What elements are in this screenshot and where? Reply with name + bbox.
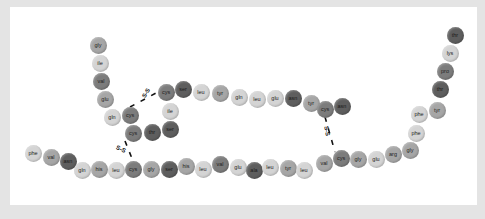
amino-acid-label: thr xyxy=(437,86,443,92)
amino-acid-val: val xyxy=(43,149,60,166)
amino-acid-thr: thr xyxy=(144,124,161,141)
amino-acid-label: asn xyxy=(289,95,298,101)
amino-acid-label: ser xyxy=(165,166,173,172)
amino-acid-label: thr xyxy=(452,32,458,38)
amino-acid-label: cys xyxy=(321,106,329,112)
amino-acid-cys: cys xyxy=(333,150,350,167)
insulin-structure-diagram: glyilevalgluglncyscysthrserilecysserleut… xyxy=(0,0,485,219)
amino-acid-gln: gln xyxy=(104,109,121,126)
amino-acid-ser: ser xyxy=(162,121,179,138)
amino-acid-val: val xyxy=(93,73,110,90)
amino-acid-ser: ser xyxy=(161,161,178,178)
amino-acid-label: gly xyxy=(406,147,413,153)
amino-acid-label: val xyxy=(47,154,54,160)
amino-acid-label: ile xyxy=(97,60,103,66)
amino-acid-label: val xyxy=(320,160,327,166)
amino-acid-cys: cys xyxy=(122,107,139,124)
amino-acid-label: gly xyxy=(354,156,361,162)
amino-acid-ile: ile xyxy=(162,103,179,120)
amino-acid-label: tyr xyxy=(308,100,314,106)
amino-acid-tyr: tyr xyxy=(212,85,229,102)
amino-acid-label: glu xyxy=(101,96,108,102)
amino-acid-label: leu xyxy=(300,167,307,173)
amino-acid-glu: glu xyxy=(97,91,114,108)
amino-acid-asn: asn xyxy=(285,90,302,107)
amino-acid-label: tyr xyxy=(434,107,440,113)
amino-acid-cys: cys xyxy=(317,101,334,118)
amino-acid-gln: gln xyxy=(74,162,91,179)
amino-acid-label: leu xyxy=(197,89,204,95)
amino-acid-gly: gly xyxy=(90,37,107,54)
amino-acid-label: val xyxy=(97,78,104,84)
amino-acid-label: pro xyxy=(441,68,449,74)
amino-acid-his: his xyxy=(178,158,195,175)
amino-acid-leu: leu xyxy=(296,162,313,179)
amino-acid-label: gln xyxy=(78,167,85,173)
amino-acid-gly: gly xyxy=(350,151,367,168)
amino-acid-asn: asn xyxy=(334,98,351,115)
amino-acid-gly: gly xyxy=(402,142,419,159)
amino-acid-thr: thr xyxy=(432,81,449,98)
amino-acid-label: phe xyxy=(414,111,423,117)
amino-acid-label: his xyxy=(182,163,189,169)
amino-acid-leu: leu xyxy=(262,159,279,176)
amino-acid-label: lys xyxy=(447,50,454,56)
amino-acid-label: glu xyxy=(372,156,379,162)
amino-acid-cys: cys xyxy=(125,125,142,142)
amino-acid-label: thr xyxy=(149,129,155,135)
amino-acid-label: leu xyxy=(266,164,273,170)
amino-acid-tyr: tyr xyxy=(280,160,297,177)
amino-acid-leu: leu xyxy=(249,91,266,108)
amino-acid-label: asn xyxy=(64,158,73,164)
amino-acid-label: his xyxy=(95,166,102,172)
amino-acid-arg: arg xyxy=(385,146,402,163)
amino-acid-glu: glu xyxy=(368,151,385,168)
amino-acid-ile: ile xyxy=(92,55,109,72)
amino-acid-glu: glu xyxy=(230,159,247,176)
amino-acid-cys: cys xyxy=(158,84,175,101)
amino-acid-leu: leu xyxy=(193,84,210,101)
amino-acid-gln: gln xyxy=(231,89,248,106)
amino-acid-label: ser xyxy=(166,126,174,132)
amino-acid-label: asn xyxy=(338,103,347,109)
amino-acid-label: cys xyxy=(129,130,137,136)
amino-acid-label: tyr xyxy=(285,165,291,171)
amino-acid-label: leu xyxy=(199,166,206,172)
amino-acid-label: ala xyxy=(250,167,257,173)
amino-acid-phe: phe xyxy=(25,145,42,162)
amino-acid-label: cys xyxy=(126,112,134,118)
amino-acid-ala: ala xyxy=(246,162,263,179)
amino-acid-tyr: tyr xyxy=(429,102,446,119)
amino-acid-label: leu xyxy=(253,96,260,102)
amino-acid-lys: lys xyxy=(442,45,459,62)
amino-acid-phe: phe xyxy=(408,125,425,142)
amino-acid-label: arg xyxy=(389,151,397,157)
amino-acid-his: his xyxy=(91,161,108,178)
amino-acid-label: glu xyxy=(234,164,241,170)
amino-acid-thr: thr xyxy=(447,27,464,44)
amino-acid-label: leu xyxy=(112,167,119,173)
amino-acid-val: val xyxy=(212,156,229,173)
amino-acid-gly: gly xyxy=(143,161,160,178)
amino-acid-leu: leu xyxy=(195,161,212,178)
amino-acid-label: tyr xyxy=(217,90,223,96)
amino-acid-ser: ser xyxy=(175,81,192,98)
amino-acid-label: gln xyxy=(235,94,242,100)
amino-acid-label: cys xyxy=(162,89,170,95)
amino-acid-cys: cys xyxy=(125,161,142,178)
amino-acid-label: ile xyxy=(167,108,173,114)
amino-acid-leu: leu xyxy=(108,162,125,179)
amino-acid-pro: pro xyxy=(437,63,454,80)
amino-acid-label: val xyxy=(216,161,223,167)
amino-acid-label: cys xyxy=(337,155,345,161)
amino-acid-val: val xyxy=(316,155,333,172)
amino-acid-phe: phe xyxy=(411,106,428,123)
amino-acid-label: cys xyxy=(129,166,137,172)
amino-acid-label: glu xyxy=(271,95,278,101)
amino-acid-label: gly xyxy=(147,166,154,172)
disulfide-bond-line xyxy=(125,141,133,161)
amino-acid-label: gly xyxy=(94,42,101,48)
amino-acid-glu: glu xyxy=(267,90,284,107)
amino-acid-label: phe xyxy=(28,150,37,156)
amino-acid-label: ser xyxy=(179,86,187,92)
